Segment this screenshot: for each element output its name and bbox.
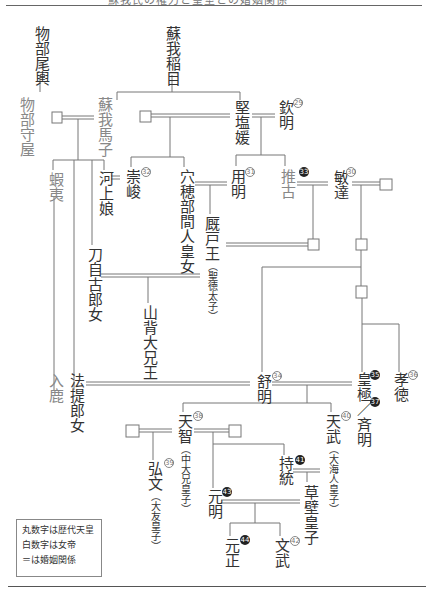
- person-soga-iname: 蘇我稲目: [164, 26, 179, 86]
- emperor-number-34: 34: [272, 371, 282, 381]
- empress-number-41: 41: [295, 455, 305, 465]
- person-tenmu: 天武（大海人皇子）: [324, 414, 340, 514]
- emperor-number-39: 39: [164, 458, 174, 468]
- emperor-number-40: 40: [341, 411, 351, 421]
- person-kotoku: 孝徳: [392, 372, 407, 402]
- emperor-number-32: 32: [141, 167, 151, 177]
- person-monmu: 文武: [273, 538, 288, 568]
- person-jomei: 舒明: [255, 374, 270, 404]
- emperor-number-38: 38: [193, 411, 203, 421]
- person-mononobe-moriya: 物部守屋: [18, 97, 33, 157]
- person-anahobe: 穴穂部間人皇女: [178, 169, 193, 274]
- person-tenji: 天智（中大兄皇子）: [176, 414, 192, 514]
- person-mononobe-okoshi: 物部尾輿: [33, 26, 48, 86]
- person-tojiko: 刀自古郎女: [86, 247, 101, 322]
- emperor-number-29: 29: [293, 98, 303, 108]
- emperor-number-31: 31: [245, 167, 255, 177]
- person-jito: 持統: [277, 456, 292, 486]
- empress-number-35: 35: [370, 370, 380, 380]
- empress-number-33: 33: [299, 167, 309, 177]
- legend-line-emperor-number: 丸数字は歴代天皇: [22, 523, 101, 538]
- person-kitashihime: 堅塩媛: [233, 100, 248, 145]
- person-yamashiro: 山背大兄王: [141, 305, 156, 380]
- person-umayado: 厩戸王（聖徳太子）: [203, 216, 219, 321]
- emperor-number-36: 36: [408, 370, 418, 380]
- emperor-number-30: 30: [346, 167, 356, 177]
- emperor-number-42: 42: [290, 536, 300, 546]
- person-kusakabe: 草壁皇子: [302, 485, 317, 545]
- person-yomei: 用明: [229, 169, 244, 199]
- person-suiko: 推古: [279, 169, 294, 199]
- person-emishi: 蝦夷: [47, 172, 62, 202]
- empress-number-43: 43: [222, 487, 232, 497]
- legend-line-marriage: ＝は婚姻関係: [22, 553, 101, 568]
- person-kinmei: 欽明: [277, 100, 292, 130]
- empress-number-44: 44: [240, 535, 250, 545]
- person-soga-umako: 蘇我馬子: [96, 97, 111, 157]
- person-gensho: 元正: [223, 538, 238, 568]
- empress-number-37: 37: [370, 397, 380, 407]
- person-kobun: 弘文（大友皇子）: [146, 461, 162, 551]
- person-kawakami: 河上娘: [97, 171, 112, 216]
- person-hotei: 法提郎女: [68, 373, 83, 433]
- person-sushun: 崇峻: [124, 169, 139, 199]
- person-genmei: 元明: [206, 489, 221, 519]
- legend-box: 丸数字は歴代天皇 白数字は女帝 ＝は婚姻関係: [16, 519, 102, 577]
- bottom-rule: [8, 586, 426, 587]
- person-iruka: 入鹿: [47, 373, 62, 403]
- person-bidatsu: 敏達: [332, 170, 347, 200]
- legend-line-empress-number: 白数字は女帝: [22, 538, 101, 553]
- person-kogyoku: 皇極／斉明: [355, 372, 370, 447]
